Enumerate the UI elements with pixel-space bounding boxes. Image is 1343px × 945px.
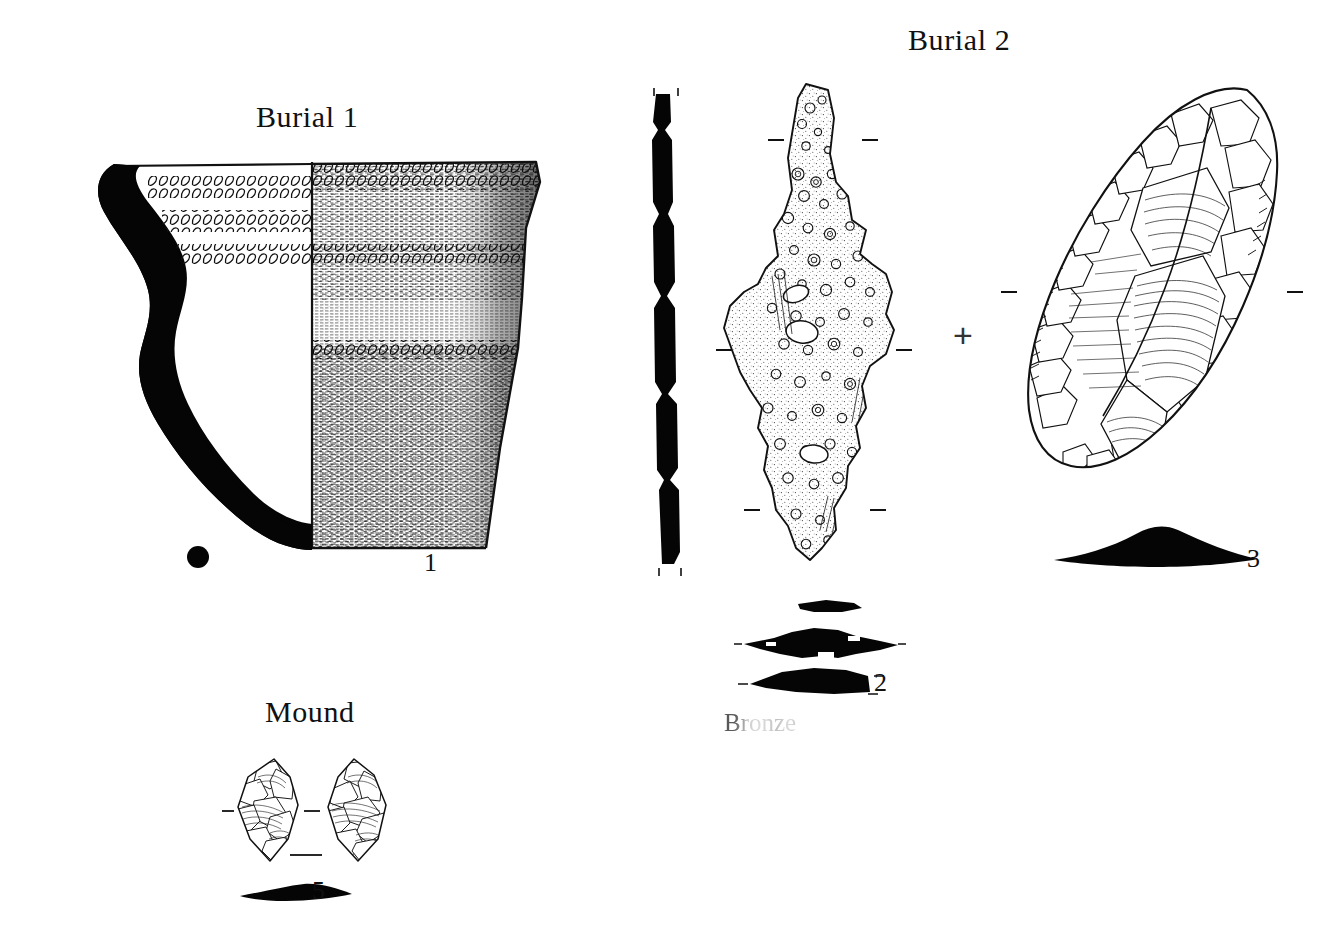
artifact-bronze-face-view bbox=[710, 78, 920, 588]
section-dot-mark bbox=[187, 546, 209, 568]
section-label-burial-2: Burial 2 bbox=[908, 23, 1010, 57]
catalog-number-2: 2 bbox=[874, 668, 887, 698]
catalog-number-3: 3 bbox=[1247, 544, 1260, 574]
artifact-small-point bbox=[228, 755, 418, 875]
registration-plus-icon: + bbox=[953, 318, 973, 352]
catalog-number-1: 1 bbox=[424, 548, 437, 578]
artifact-stone-biface bbox=[1015, 80, 1305, 500]
artifact-bronze-edge-profile bbox=[650, 82, 710, 582]
artifact-pottery-vessel bbox=[70, 148, 550, 578]
section-label-mound: Mound bbox=[265, 695, 355, 729]
illustration-plate: Burial 1 Burial 2 Mound bbox=[0, 0, 1343, 945]
artifact-stone-biface-cross-section bbox=[1052, 512, 1262, 574]
section-label-burial-1: Burial 1 bbox=[256, 100, 358, 134]
material-note-bronze: Bronze bbox=[724, 709, 796, 737]
catalog-number-5: 5 bbox=[312, 876, 325, 906]
artifact-small-point-cross-section bbox=[238, 878, 358, 908]
